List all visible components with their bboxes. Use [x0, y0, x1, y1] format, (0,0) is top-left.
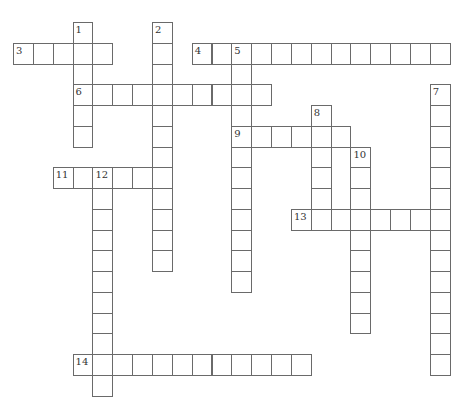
crossword-cell[interactable]	[390, 43, 411, 65]
crossword-cell[interactable]	[251, 126, 272, 148]
crossword-cell[interactable]	[430, 105, 451, 127]
crossword-cell[interactable]	[350, 43, 371, 65]
crossword-cell[interactable]	[92, 209, 113, 231]
crossword-cell[interactable]: 2	[152, 22, 173, 44]
crossword-cell[interactable]	[370, 43, 391, 65]
crossword-cell[interactable]	[311, 126, 332, 148]
crossword-cell[interactable]	[331, 43, 352, 65]
crossword-cell[interactable]	[410, 43, 431, 65]
crossword-cell[interactable]	[92, 292, 113, 314]
crossword-cell[interactable]	[430, 188, 451, 210]
crossword-cell[interactable]: 14	[73, 354, 94, 376]
crossword-cell[interactable]	[350, 292, 371, 314]
crossword-cell[interactable]	[132, 84, 153, 106]
crossword-cell[interactable]	[231, 84, 252, 106]
crossword-cell[interactable]	[92, 43, 113, 65]
crossword-cell[interactable]	[430, 167, 451, 189]
crossword-cell[interactable]: 12	[92, 167, 113, 189]
crossword-cell[interactable]	[112, 84, 133, 106]
crossword-cell[interactable]	[430, 292, 451, 314]
crossword-cell[interactable]	[350, 250, 371, 272]
crossword-cell[interactable]: 9	[231, 126, 252, 148]
crossword-cell[interactable]	[152, 230, 173, 252]
crossword-cell[interactable]	[92, 84, 113, 106]
crossword-cell[interactable]	[311, 147, 332, 169]
crossword-cell[interactable]	[271, 126, 292, 148]
crossword-cell[interactable]	[152, 167, 173, 189]
crossword-cell[interactable]	[73, 43, 94, 65]
crossword-cell[interactable]	[152, 354, 173, 376]
crossword-cell[interactable]	[231, 250, 252, 272]
crossword-cell[interactable]	[73, 126, 94, 148]
crossword-cell[interactable]	[311, 188, 332, 210]
crossword-cell[interactable]	[53, 43, 74, 65]
crossword-cell[interactable]	[231, 147, 252, 169]
crossword-cell[interactable]	[231, 167, 252, 189]
crossword-cell[interactable]	[430, 230, 451, 252]
crossword-cell[interactable]	[370, 209, 391, 231]
crossword-cell[interactable]	[430, 147, 451, 169]
crossword-cell[interactable]	[112, 167, 133, 189]
crossword-cell[interactable]	[231, 188, 252, 210]
crossword-cell[interactable]: 1	[73, 22, 94, 44]
crossword-cell[interactable]	[251, 354, 272, 376]
crossword-cell[interactable]: 5	[231, 43, 252, 65]
crossword-cell[interactable]	[231, 271, 252, 293]
crossword-cell[interactable]	[92, 230, 113, 252]
crossword-cell[interactable]	[231, 105, 252, 127]
crossword-cell[interactable]	[311, 43, 332, 65]
crossword-cell[interactable]	[410, 209, 431, 231]
crossword-cell[interactable]	[390, 209, 411, 231]
crossword-cell[interactable]: 6	[73, 84, 94, 106]
crossword-cell[interactable]	[271, 43, 292, 65]
crossword-cell[interactable]	[33, 43, 54, 65]
crossword-cell[interactable]: 11	[53, 167, 74, 189]
crossword-cell[interactable]	[251, 43, 272, 65]
crossword-cell[interactable]	[92, 354, 113, 376]
crossword-cell[interactable]	[172, 84, 193, 106]
crossword-cell[interactable]	[212, 354, 233, 376]
crossword-cell[interactable]	[92, 250, 113, 272]
crossword-cell[interactable]	[73, 105, 94, 127]
crossword-cell[interactable]	[350, 209, 371, 231]
crossword-cell[interactable]	[92, 333, 113, 355]
crossword-cell[interactable]	[430, 209, 451, 231]
crossword-cell[interactable]	[251, 84, 272, 106]
crossword-cell[interactable]	[112, 354, 133, 376]
crossword-cell[interactable]	[430, 354, 451, 376]
crossword-cell[interactable]	[291, 43, 312, 65]
crossword-cell[interactable]	[152, 147, 173, 169]
crossword-cell[interactable]	[152, 250, 173, 272]
crossword-cell[interactable]	[73, 167, 94, 189]
crossword-cell[interactable]	[430, 271, 451, 293]
crossword-cell[interactable]	[152, 105, 173, 127]
crossword-cell[interactable]	[430, 333, 451, 355]
crossword-cell[interactable]: 4	[192, 43, 213, 65]
crossword-cell[interactable]	[231, 209, 252, 231]
crossword-cell[interactable]	[152, 209, 173, 231]
crossword-cell[interactable]	[231, 354, 252, 376]
crossword-cell[interactable]	[132, 167, 153, 189]
crossword-cell[interactable]	[350, 188, 371, 210]
crossword-cell[interactable]	[430, 250, 451, 272]
crossword-cell[interactable]	[350, 230, 371, 252]
crossword-cell[interactable]: 7	[430, 84, 451, 106]
crossword-cell[interactable]	[271, 354, 292, 376]
crossword-cell[interactable]	[152, 126, 173, 148]
crossword-cell[interactable]	[231, 230, 252, 252]
crossword-cell[interactable]	[132, 354, 153, 376]
crossword-cell[interactable]	[231, 64, 252, 86]
crossword-cell[interactable]	[192, 84, 213, 106]
crossword-cell[interactable]	[430, 43, 451, 65]
crossword-cell[interactable]	[192, 354, 213, 376]
crossword-cell[interactable]	[311, 167, 332, 189]
crossword-cell[interactable]	[350, 271, 371, 293]
crossword-cell[interactable]: 13	[291, 209, 312, 231]
crossword-cell[interactable]	[291, 354, 312, 376]
crossword-cell[interactable]	[331, 126, 352, 148]
crossword-cell[interactable]: 10	[350, 147, 371, 169]
crossword-cell[interactable]	[152, 188, 173, 210]
crossword-cell[interactable]	[73, 64, 94, 86]
crossword-cell[interactable]	[430, 313, 451, 335]
crossword-cell[interactable]	[92, 313, 113, 335]
